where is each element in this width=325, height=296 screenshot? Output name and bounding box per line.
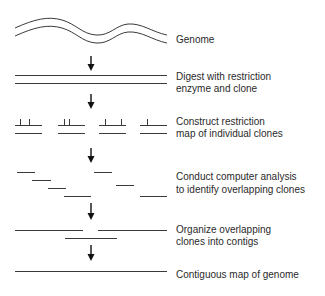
clone-map-4 [140,119,167,134]
arrow-down-icon [88,94,95,109]
genome-double-strand [15,18,167,43]
step-label-analysis-line2: to identify overlapping clones [176,184,305,195]
step-label-digest-line2: enzyme and clone [176,83,258,94]
digested-dna-strands [15,76,167,84]
arrow-down-icon [88,148,95,163]
clone-map-3 [99,119,126,134]
overlapping-clone-fragments [17,173,167,197]
arrow-down-icon [88,245,95,261]
step-label-restriction-line1: Construct restriction [176,116,265,127]
contig-fragments [15,231,167,239]
step-label-contiguous-map: Contiguous map of genome [176,269,299,280]
clone-map-1 [15,119,42,134]
step-label-contigs-line2: clones into contigs [176,236,258,247]
step-label-analysis-line1: Conduct computer analysis [176,171,297,182]
step-label-digest-line1: Digest with restriction [176,71,271,82]
step-label-restriction-line2: map of individual clones [176,128,283,139]
arrow-down-icon [88,203,95,220]
arrow-down-icon [88,56,95,71]
step-label-contigs-line1: Organize overlapping [176,224,271,235]
clone-restriction-maps [15,119,167,134]
step-label-genome: Genome [176,34,215,45]
clone-map-2 [58,119,85,134]
genome-mapping-diagram: Genome Digest with restriction enzyme an… [0,0,325,296]
